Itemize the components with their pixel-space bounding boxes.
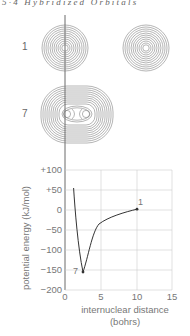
molecule-contour xyxy=(41,86,113,143)
point-label-1: 1 xyxy=(138,197,143,207)
x-axis-label-line1: internuclear distance xyxy=(65,304,185,316)
x-tick: 10 xyxy=(127,291,147,302)
chart-grid xyxy=(65,170,172,290)
atom-contour-right xyxy=(123,25,169,71)
y-tick: +100 xyxy=(22,164,62,175)
x-tick: 0 xyxy=(55,291,75,302)
point-label-7: 7 xyxy=(73,266,78,276)
x-tick: 5 xyxy=(91,291,111,302)
x-axis-label: internuclear distance (bohrs) xyxy=(65,304,185,328)
y-axis-label: potential energy (kJ/mol) xyxy=(20,186,31,290)
min-point-marker xyxy=(82,271,85,274)
x-tick: 15 xyxy=(162,291,182,302)
x-axis-label-line2: (bohrs) xyxy=(65,316,185,328)
end-point-marker xyxy=(136,208,139,211)
